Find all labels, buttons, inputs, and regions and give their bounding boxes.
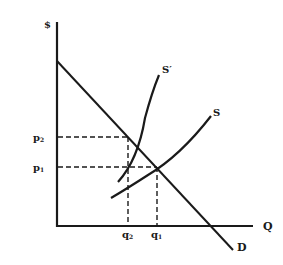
q2-label: q2 <box>122 229 133 240</box>
y-axis-label: $ <box>44 19 51 30</box>
demand-label: D <box>237 241 247 254</box>
supply-shifted-label: S′ <box>162 64 172 75</box>
demand-curve <box>57 61 233 250</box>
q1-label: q1 <box>151 229 162 240</box>
p2-label: p2 <box>33 132 44 143</box>
x-axis-label: Q <box>263 220 273 233</box>
supply-shifted-curve <box>118 75 159 182</box>
supply-label: S <box>213 107 220 118</box>
supply-curve <box>111 116 211 198</box>
supply-demand-diagram: $ Q S′ S D p2 p1 q2 q1 <box>0 0 283 265</box>
p1-label: p1 <box>33 162 44 173</box>
